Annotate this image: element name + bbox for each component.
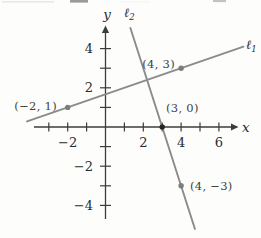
crop-smudge (120, 1, 150, 2)
y-tick-label-4: 4 (85, 41, 93, 56)
x-tick-label-6: 6 (215, 135, 223, 150)
lines-group (27, 28, 243, 229)
point-dot-2 (160, 124, 165, 129)
line-l1-label-sub: 1 (251, 44, 256, 54)
x-axis-label: x (242, 119, 250, 135)
point-label-4-neg3: (4, −3) (190, 179, 233, 193)
x-tick-label--2: −2 (58, 135, 77, 150)
crop-smudge (213, 0, 226, 2)
textbook-figure: −224642−2−4 y x ℓ2 ℓ1 (−2, 1) (4, 3) (3,… (0, 0, 261, 238)
line-l2-label-sub: 2 (128, 12, 134, 22)
line-l2-label: ℓ2 (124, 5, 135, 22)
point-label-3-0: (3, 0) (166, 101, 199, 115)
x-axis-arrow (231, 123, 239, 130)
point-label-neg2-1: (−2, 1) (14, 99, 57, 113)
line-l1-label: ℓ1 (246, 37, 257, 54)
x-tick-label-4: 4 (177, 135, 185, 150)
crop-smudge (70, 0, 88, 3)
y-tick-label--4: −4 (74, 198, 93, 213)
x-tick-label-2: 2 (139, 135, 147, 150)
point-dot-3 (178, 183, 183, 188)
page-crop-artifacts (2, 0, 226, 3)
y-tick-label-2: 2 (85, 80, 93, 95)
y-axis-label: y (102, 6, 111, 22)
crop-smudge (2, 1, 54, 3)
y-axis-arrow (102, 26, 109, 34)
point-dot-0 (65, 105, 70, 110)
coordinate-plane-figure: −224642−2−4 y x ℓ2 ℓ1 (−2, 1) (4, 3) (3,… (0, 0, 261, 238)
line-l1 (27, 47, 243, 122)
point-label-4-3: (4, 3) (142, 57, 175, 71)
y-tick-label--2: −2 (74, 159, 93, 174)
point-dot-1 (178, 66, 183, 71)
